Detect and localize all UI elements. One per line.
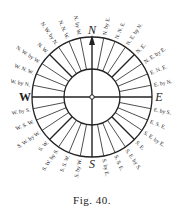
compass-ray <box>103 42 115 72</box>
compass-point-label: E. by S. <box>153 106 172 115</box>
compass-point-label: N. E. <box>134 42 147 55</box>
compass-ray <box>108 120 126 147</box>
compass-ray <box>115 113 142 131</box>
compass-point-label: E <box>154 90 163 104</box>
compass-point-label: W. by S. <box>11 106 31 116</box>
compass-ray <box>80 38 86 69</box>
compass-point-label: W <box>19 90 31 104</box>
compass-ray <box>97 38 103 69</box>
compass-point-label: S. W. by S. <box>41 147 60 172</box>
compass-point-label: E. S. E. <box>149 118 167 130</box>
compass-ray <box>42 64 69 82</box>
compass-point-label: E. N. E. <box>149 63 168 76</box>
compass-point-label: N. W. by W. <box>15 44 42 65</box>
compass-point-label: S. E. by S. <box>125 148 143 171</box>
figure-caption: Fig. 40. <box>0 194 184 206</box>
compass-rose-diagram: NN. by E.N. N. E.N. E. by N.N. E.N. E. b… <box>0 0 184 209</box>
compass-point-label: S. S. E. <box>113 154 125 172</box>
compass-ray <box>80 124 86 155</box>
compass-ray <box>119 85 150 91</box>
compass-point-label: N. by E. <box>101 16 111 36</box>
compass-point-label: S. by W. <box>73 158 83 178</box>
compass-point-label: S. by E. <box>101 158 110 177</box>
compass-point-label: S <box>89 157 95 171</box>
compass-ray <box>115 64 142 82</box>
compass-point-label: N. N. E. <box>113 20 126 40</box>
compass-point-label: N. N. W. <box>58 19 71 40</box>
compass-point-label: W. S. W. <box>15 118 36 131</box>
compass-ray <box>37 108 67 120</box>
compass-ray <box>103 123 115 153</box>
compass-ray <box>97 124 103 155</box>
compass-ray <box>108 47 126 74</box>
compass-ray <box>118 108 148 120</box>
compass-ray <box>50 55 73 78</box>
compass-ray <box>33 102 64 108</box>
compass-ray <box>59 47 77 74</box>
compass-point-label: S. S. W. <box>58 154 71 173</box>
compass-point-label: W. N. W. <box>14 62 36 76</box>
compass-ray <box>42 113 69 131</box>
compass-ray <box>112 117 135 140</box>
compass-point-label: N. E. by E. <box>143 45 168 64</box>
compass-ray <box>33 85 64 91</box>
compass-point-label: W. by N. <box>10 78 31 88</box>
compass-point-label: E. by N. <box>153 78 173 88</box>
compass-ray <box>69 123 81 153</box>
compass-point-label: N. by W. <box>73 15 83 36</box>
compass-point-label: S. W. <box>37 139 50 152</box>
compass-ray <box>59 120 77 147</box>
center-pivot <box>90 95 94 99</box>
compass-ray <box>69 42 81 72</box>
compass-ray <box>37 74 67 86</box>
compass-point-label: N. W. <box>36 41 50 55</box>
compass-ray <box>50 117 73 140</box>
compass-point-label: N <box>87 23 97 37</box>
compass-point-label: S. E. <box>134 139 146 151</box>
compass-point-label: S. E. by E. <box>143 130 167 149</box>
compass-ray <box>119 102 150 108</box>
compass-ray <box>118 74 148 86</box>
compass-ray <box>112 55 135 78</box>
